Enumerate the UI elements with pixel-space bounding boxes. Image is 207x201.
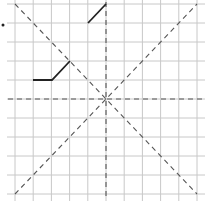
bullet-marker <box>2 24 5 27</box>
grid-canvas <box>0 0 207 201</box>
symmetry-grid-diagram <box>0 0 207 201</box>
dot-marker <box>2 24 5 27</box>
segment-top <box>88 4 106 23</box>
